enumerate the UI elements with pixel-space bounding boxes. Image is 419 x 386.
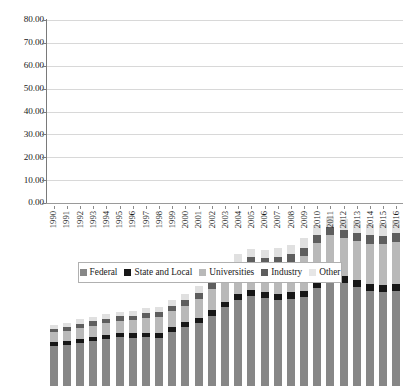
x-axis-tick-mark <box>159 206 160 209</box>
bar-segment-federal <box>313 288 321 386</box>
x-axis-tick-label: 2003 <box>221 211 230 228</box>
x-axis-tick-mark <box>357 206 358 209</box>
bar-segment-state <box>353 280 361 287</box>
bar-segment-universities <box>208 289 216 310</box>
x-axis-tick-mark <box>344 206 345 209</box>
x-axis-tick-label: 2009 <box>300 211 309 228</box>
y-axis-tick-label: 80.00 <box>2 15 44 24</box>
bar-segment-industry <box>102 319 110 323</box>
bar-segment-state <box>221 302 229 308</box>
bar-segment-state <box>300 291 308 298</box>
x-axis-tick-label: 2013 <box>353 211 362 228</box>
bar-segment-federal <box>155 338 163 386</box>
legend-swatch-industry-icon <box>261 269 268 276</box>
legend-label: Other <box>319 268 340 277</box>
x-axis-tick-label: 1999 <box>168 211 177 228</box>
bar-segment-other <box>129 311 137 316</box>
bar-segment-federal <box>247 296 255 386</box>
bar-segment-federal <box>76 343 84 386</box>
bar-segment-federal <box>116 337 124 386</box>
legend-item-state[interactable]: State and Local <box>124 268 192 277</box>
legend-item-other[interactable]: Other <box>309 268 340 277</box>
x-axis-tick-label: 1990 <box>49 211 58 228</box>
bar-segment-state <box>366 284 374 291</box>
bar-segment-universities <box>63 331 71 342</box>
bar-segment-federal <box>50 346 58 386</box>
bar-segment-universities <box>116 321 124 333</box>
y-axis-tick-label: 20.00 <box>2 153 44 162</box>
x-axis-tick-label: 1997 <box>142 211 151 228</box>
bar-segment-federal <box>63 345 71 386</box>
bar-segment-federal <box>195 323 203 386</box>
bar-segment-industry <box>76 324 84 328</box>
bar-segment-federal <box>221 307 229 386</box>
legend-label: State and Local <box>134 268 192 277</box>
bar-segment-other <box>50 325 58 329</box>
bar-segment-universities <box>195 299 203 318</box>
bar-segment-state <box>50 342 58 346</box>
x-axis-tick-mark <box>80 206 81 209</box>
bar-segment-other <box>63 323 71 327</box>
bar-segment-state <box>168 327 176 332</box>
x-axis-tick-mark <box>396 206 397 209</box>
bar-segment-state <box>181 322 189 327</box>
bar-segment-industry <box>155 312 163 317</box>
legend-swatch-other-icon <box>309 269 316 276</box>
x-axis-tick-mark <box>225 206 226 209</box>
plot-area <box>47 20 403 203</box>
bar-segment-other <box>102 314 110 318</box>
bar-segment-industry <box>208 283 216 289</box>
bar-segment-state <box>129 333 137 337</box>
bar-segment-industry <box>50 329 58 333</box>
x-axis-tick-mark <box>106 206 107 209</box>
y-axis-tick-label: 30.00 <box>2 130 44 139</box>
bar-segment-federal <box>300 297 308 386</box>
bar-segment-federal <box>208 316 216 386</box>
x-axis-tick-label: 2005 <box>247 211 256 228</box>
bar-segment-state <box>102 335 110 339</box>
bar-segment-federal <box>326 280 334 386</box>
legend-item-industry[interactable]: Industry <box>261 268 302 277</box>
bar-segment-state <box>89 337 97 341</box>
bar-segment-other <box>142 308 150 313</box>
x-axis-tick-mark <box>67 206 68 209</box>
bar-segment-universities <box>76 328 84 339</box>
y-axis: 0.0010.0020.0030.0040.0050.0060.0070.008… <box>0 0 44 296</box>
x-axis-tick-label: 1996 <box>128 211 137 228</box>
bar-segment-federal <box>168 332 176 386</box>
bar-segment-industry <box>195 293 203 299</box>
x-axis-tick-mark <box>212 206 213 209</box>
x-axis-tick-label: 2006 <box>260 211 269 228</box>
bar-segment-federal <box>379 292 387 386</box>
bar-segment-federal <box>287 299 295 386</box>
bar-segment-state <box>76 339 84 343</box>
bar-segment-state <box>274 294 282 300</box>
x-axis-tick-mark <box>54 206 55 209</box>
bar-segment-federal <box>181 327 189 386</box>
bar-segment-state <box>247 290 255 296</box>
x-axis-tick-label: 2016 <box>392 211 401 228</box>
x-axis-tick-mark <box>93 206 94 209</box>
x-axis-tick-mark <box>172 206 173 209</box>
x-axis-tick-label: 1994 <box>102 211 111 228</box>
bar-segment-federal <box>89 341 97 386</box>
legend-item-federal[interactable]: Federal <box>80 268 118 277</box>
bar-segment-universities <box>50 332 58 342</box>
legend-label: Industry <box>271 268 302 277</box>
x-axis-tick-mark <box>317 206 318 209</box>
bar-segment-universities <box>142 318 150 333</box>
bar-segment-industry <box>89 321 97 325</box>
x-axis: 1990199119921993199419951996199719981999… <box>47 206 403 252</box>
x-axis-tick-mark <box>120 206 121 209</box>
legend-item-universities[interactable]: Universities <box>199 268 254 277</box>
x-axis-tick-mark <box>383 206 384 209</box>
x-axis-tick-mark <box>265 206 266 209</box>
bar-segment-federal <box>261 298 269 386</box>
x-axis-tick-mark <box>146 206 147 209</box>
bar-segment-universities <box>129 320 137 333</box>
x-axis-tick-label: 2007 <box>273 211 282 228</box>
bar-segment-federal <box>353 287 361 386</box>
bar-segment-state <box>261 292 269 298</box>
bar-segment-state <box>195 318 203 323</box>
